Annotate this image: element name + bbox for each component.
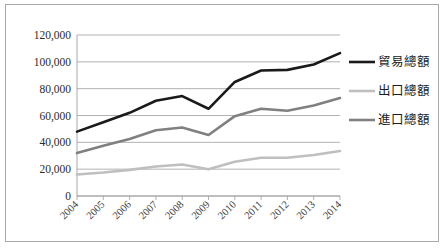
y-tick-label: 100,000 (34, 56, 72, 69)
y-tick-label: 20,000 (39, 163, 71, 176)
legend-item-label[interactable]: 進口總額 (378, 112, 430, 127)
x-tick-label: 2007 (137, 199, 160, 222)
legend-item-label[interactable]: 出口總額 (378, 83, 430, 98)
x-tick-label: 2014 (321, 198, 344, 221)
y-tick-label: 40,000 (39, 136, 71, 149)
y-tick-label: 80,000 (39, 83, 71, 96)
y-tick-label: 60,000 (39, 110, 71, 123)
chart-legend[interactable]: 貿易總額出口總額進口總額 (349, 54, 430, 127)
legend-item-label[interactable]: 貿易總額 (378, 54, 430, 69)
screenshot-root: 020,00040,00060,00080,000100,000120,000 … (0, 0, 445, 248)
y-tick-label: 120,000 (34, 29, 72, 42)
x-axis-labels: 2004200520062007200820092010201120122013… (58, 198, 344, 221)
chart-canvas: 020,00040,00060,00080,000100,000120,000 … (0, 0, 445, 248)
series-line (77, 98, 340, 153)
x-tick-label: 2009 (189, 199, 212, 222)
x-tick-label: 2008 (163, 199, 186, 222)
series-line (77, 53, 340, 131)
x-tick-label: 2011 (242, 199, 264, 221)
x-tick-label: 2005 (84, 199, 107, 222)
x-tick-label: 2006 (110, 199, 133, 222)
y-axis-labels: 020,00040,00060,00080,000100,000120,000 (34, 29, 72, 202)
x-tick-label: 2012 (268, 199, 291, 222)
x-axis (77, 196, 340, 200)
x-tick-label: 2013 (294, 199, 317, 222)
data-series (77, 53, 340, 174)
x-tick-label: 2004 (58, 198, 81, 221)
series-line (77, 151, 340, 174)
x-tick-label: 2010 (216, 199, 239, 222)
line-chart: 020,00040,00060,00080,000100,000120,000 … (0, 0, 445, 248)
